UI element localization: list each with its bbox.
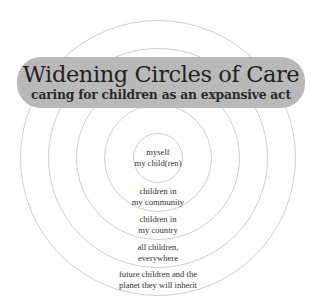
ring-label-2: children in my community [58, 186, 258, 207]
ring-label-line: my country [58, 225, 258, 236]
ring-label-line: everywhere [58, 253, 258, 264]
ring-label-line: future children and the [58, 269, 258, 280]
ring-label-line: planet they will inherit [58, 280, 258, 291]
ring-label-line: all children, [58, 242, 258, 253]
title-banner: Widening Circles of Care caring for chil… [17, 57, 305, 108]
ring-label-line: my child(ren) [58, 158, 258, 169]
diagram-subtitle: caring for children as an expansive act [17, 87, 305, 103]
ring-label-3: children in my country [58, 214, 258, 235]
ring-label-1: myself my child(ren) [58, 147, 258, 168]
ring-label-4: all children, everywhere [58, 242, 258, 263]
ring-label-5: future children and the planet they will… [58, 269, 258, 290]
ring-label-line: myself [58, 147, 258, 158]
ring-label-line: children in [58, 186, 258, 197]
diagram-title: Widening Circles of Care [17, 60, 305, 88]
ring-label-line: my community [58, 197, 258, 208]
ring-label-line: children in [58, 214, 258, 225]
